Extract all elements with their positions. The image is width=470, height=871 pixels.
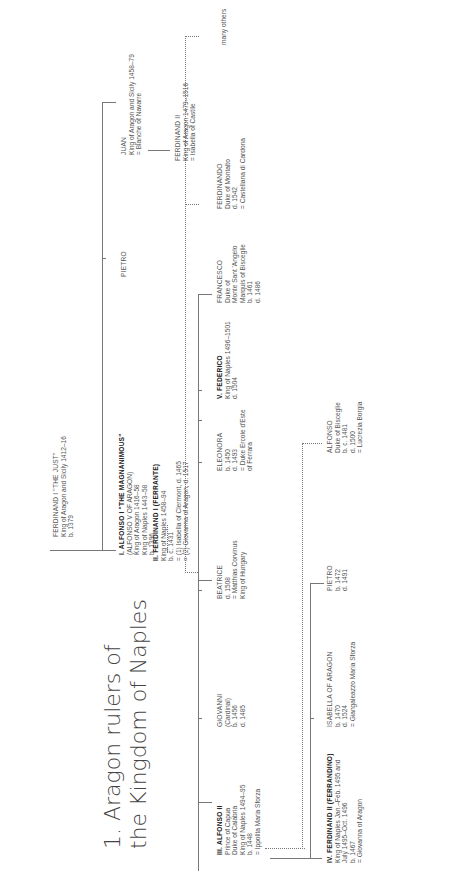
connector-illegitimate	[265, 848, 305, 849]
title-line-1: 1. Aragon rulers of	[100, 599, 126, 849]
person-ferrandino[interactable]: IV. FERDINAND II (FERRANDINO) King of Na…	[326, 753, 364, 863]
person-ferdinand-ii-aragon[interactable]: FERDINAND II King of Aragon 1479–1516 = …	[174, 83, 197, 161]
many-others-note: many others	[220, 9, 228, 45]
person-beatrice[interactable]: BEATRICE d. 1508 = Matthias Corvinus Kin…	[216, 541, 246, 599]
person-alfonso-bisceglie[interactable]: ALFONSO Duke of Bisceglie b. c. 1481 d. …	[326, 402, 364, 454]
connector	[102, 550, 116, 551]
family-tree-canvas: 1. Aragon rulers of the Kingdom of Naple…	[0, 0, 470, 871]
person-eleonora[interactable]: ELEONORA b. 1450 d. 1493 = Duke Ercole d…	[216, 409, 254, 471]
person-isabella-of-aragon[interactable]: ISABELLA OF ARAGON b. 1470 d. 1524 = Gia…	[326, 642, 356, 727]
person-ferdinand-i-the-just[interactable]: FERDINAND I "THE JUST" King of Aragon an…	[52, 436, 75, 537]
person-pietro-younger[interactable]: PIETRO b. 1472 d. 1491	[326, 565, 349, 591]
connector	[198, 580, 212, 581]
connector	[198, 420, 202, 421]
person-federico[interactable]: V. FEDERICO King of Naples 1496–1501 d. …	[216, 321, 239, 399]
connector	[198, 802, 212, 803]
person-pietro-elder[interactable]: PIETRO	[120, 251, 128, 277]
person-giovanni[interactable]: GIOVANNI (Cardinal) b. 1456 d. 1485	[216, 694, 246, 727]
connector-illegitimate	[302, 444, 303, 849]
person-juan[interactable]: JUAN King of Aragon and Sicily 1458–79 =…	[120, 54, 143, 155]
connector	[310, 584, 311, 859]
connector-illegitimate	[185, 204, 199, 205]
connector	[270, 858, 310, 859]
person-alfonso-i[interactable]: I. ALFONSO I "THE MAGNANIMOUS" (ALFONSO …	[118, 433, 156, 555]
connector	[310, 583, 324, 584]
person-ferrante[interactable]: II. FERDINAND I (FERRANTE) King of Naple…	[152, 461, 190, 561]
diagram-title: 1. Aragon rulers of the Kingdom of Naple…	[100, 599, 152, 849]
connector	[148, 150, 170, 151]
connector	[50, 550, 102, 551]
connector-illegitimate	[185, 36, 199, 37]
person-francesco[interactable]: FRANCESCO Duke of Monte Sant 'Angelo Mar…	[216, 244, 262, 303]
person-alfonso-ii[interactable]: III. ALFONSO II Prince of Capua Duke of …	[216, 785, 262, 855]
connector	[102, 102, 116, 103]
connector	[102, 258, 106, 259]
connector	[198, 295, 199, 803]
connector	[310, 718, 314, 719]
connector	[102, 103, 103, 551]
title-line-2: the Kingdom of Naples	[126, 599, 152, 849]
connector-illegitimate	[302, 443, 322, 444]
person-ferdinando[interactable]: FERDINANDO Duke of Montalto d. 1542 = Ca…	[216, 138, 246, 209]
connector	[198, 294, 212, 295]
connector	[310, 858, 322, 859]
connector-illegitimate	[185, 572, 198, 573]
